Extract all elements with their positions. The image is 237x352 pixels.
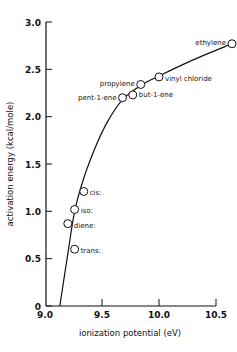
- x-axis-title: ionization potential (eV): [79, 328, 181, 338]
- data-point-label: diene:: [74, 222, 96, 230]
- data-point-marker: [71, 205, 79, 213]
- y-tick-label: 2.0: [25, 112, 41, 122]
- fit-curve: [60, 44, 232, 306]
- x-tick-label: 10.5: [205, 310, 227, 320]
- y-tick-label: 1.0: [25, 207, 41, 217]
- axes: 00.51.01.52.02.53.09.09.510.010.5: [25, 18, 227, 321]
- data-point-marker: [228, 40, 236, 48]
- x-tick-label: 9.5: [94, 310, 110, 320]
- x-tick-label: 10.0: [148, 310, 170, 320]
- y-axis-title: activation energy (kcal/mole): [5, 102, 15, 227]
- y-tick-label: 0.5: [25, 254, 41, 264]
- y-tick-label: 1.5: [25, 160, 41, 170]
- data-points: ethylenevinyl chloridepropylenebut-1-ene…: [64, 39, 236, 255]
- data-point-label: cis:: [90, 189, 102, 197]
- data-point-label: pent-1-ene: [78, 94, 117, 102]
- data-point-label: vinyl chloride: [165, 75, 212, 83]
- data-point-label: ethylene: [195, 39, 226, 47]
- chart: 00.51.01.52.02.53.09.09.510.010.5 ethyle…: [0, 0, 237, 352]
- y-tick-label: 2.5: [25, 65, 41, 75]
- data-point-marker: [64, 220, 72, 228]
- data-point-marker: [155, 73, 163, 81]
- data-point-label: iso:: [81, 207, 93, 215]
- data-point-marker: [137, 80, 145, 88]
- y-tick-label: 3.0: [25, 18, 41, 28]
- data-point-marker: [119, 94, 127, 102]
- x-tick-label: 9.0: [37, 310, 53, 320]
- data-point-marker: [129, 91, 137, 99]
- data-point-marker: [80, 187, 88, 195]
- data-point-label: but-1-ene: [139, 91, 173, 99]
- data-point-marker: [71, 245, 79, 253]
- data-point-label: trans:: [81, 247, 101, 255]
- data-point-label: propylene: [100, 80, 135, 88]
